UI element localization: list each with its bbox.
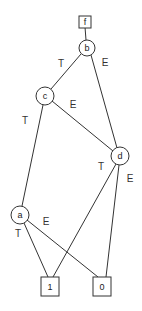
terminal-one: 1: [41, 277, 59, 296]
terminal-zero-label: 0: [99, 282, 104, 292]
node-a-label: a: [17, 210, 22, 220]
edge-a-zero-else: [27, 220, 98, 277]
edge-f-b: [85, 27, 86, 40]
node-a: a: [11, 206, 29, 224]
node-c: c: [36, 87, 54, 105]
node-b-label: b: [84, 43, 89, 53]
node-f: f: [79, 16, 91, 28]
edge-label-c-d: E: [70, 99, 77, 110]
edge-label-d-zero: E: [127, 173, 134, 184]
edge-label-c-a: T: [22, 115, 28, 126]
edge-a-one-true: [24, 223, 48, 277]
node-d: d: [111, 147, 129, 165]
node-d-label: d: [117, 151, 122, 161]
edge-label-a-one: T: [15, 228, 21, 239]
edge-label-b-d: E: [102, 57, 109, 68]
edge-label-a-zero: E: [43, 216, 50, 227]
edge-label-b-c: T: [58, 58, 64, 69]
edge-d-zero-else: [106, 165, 119, 277]
edge-b-c-true: [51, 54, 81, 89]
node-b: b: [79, 40, 95, 56]
edge-d-one-true: [53, 164, 116, 277]
terminal-one-label: 1: [47, 282, 52, 292]
terminal-zero: 0: [93, 277, 111, 296]
edge-c-d-else: [52, 101, 113, 151]
node-c-label: c: [43, 91, 48, 101]
edge-label-d-one: T: [98, 161, 104, 172]
bdd-diagram: T E E T T E E T f b c d a 1 0: [0, 0, 142, 311]
edge-b-d-else: [91, 55, 117, 148]
